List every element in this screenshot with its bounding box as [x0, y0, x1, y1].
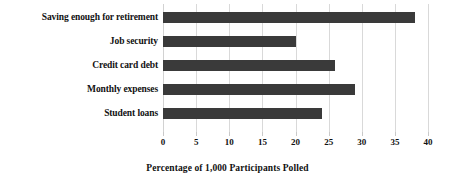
tick-mark-10 [229, 132, 230, 136]
tick-mark-15 [262, 132, 263, 136]
tick-mark-35 [395, 132, 396, 136]
category-label: Monthly expenses [0, 84, 158, 95]
tick-label-35: 35 [380, 137, 410, 147]
x-axis-title: Percentage of 1,000 Participants Polled [0, 163, 455, 173]
tick-label-0: 0 [148, 137, 178, 147]
value-axis: 0510152025303540 [163, 132, 428, 152]
tick-label-15: 15 [247, 137, 277, 147]
bar [163, 36, 296, 47]
tick-label-30: 30 [347, 137, 377, 147]
bar [163, 84, 355, 95]
tick-mark-30 [362, 132, 363, 136]
tick-label-10: 10 [214, 137, 244, 147]
tick-mark-0 [163, 132, 164, 136]
tick-label-40: 40 [413, 137, 443, 147]
category-label: Credit card debt [0, 60, 158, 71]
gridline-40 [428, 4, 429, 132]
category-label: Saving enough for retirement [0, 12, 158, 23]
tick-mark-5 [196, 132, 197, 136]
plot-area [163, 4, 428, 132]
bar [163, 12, 415, 23]
tick-mark-25 [329, 132, 330, 136]
bar [163, 60, 335, 71]
tick-label-5: 5 [181, 137, 211, 147]
tick-mark-20 [296, 132, 297, 136]
tick-mark-40 [428, 132, 429, 136]
category-label: Student loans [0, 108, 158, 119]
category-axis: Saving enough for retirementJob security… [0, 0, 158, 132]
category-label: Job security [0, 36, 158, 47]
gridline-30 [362, 4, 363, 132]
tick-label-20: 20 [281, 137, 311, 147]
gridline-35 [395, 4, 396, 132]
tick-label-25: 25 [314, 137, 344, 147]
bar-chart: Saving enough for retirementJob security… [0, 0, 455, 185]
bar [163, 108, 322, 119]
